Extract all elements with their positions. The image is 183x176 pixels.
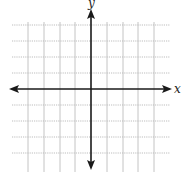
axes — [9, 9, 172, 170]
y-axis-label: y — [87, 0, 95, 10]
x-axis-label: x — [174, 82, 181, 96]
coordinate-plane: x y — [0, 0, 183, 176]
